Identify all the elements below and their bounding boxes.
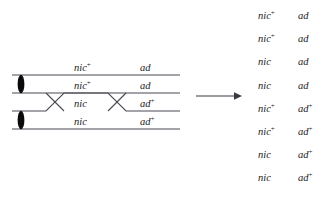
octad-row: nic ad [258,56,328,79]
tetrad-allele-nic-2: nic+ [74,81,91,92]
tetrad-allele-nic-4: nic [74,117,87,128]
octad-allele-ad: ad [298,56,309,67]
tetrad-allele-nic-3: nic [74,99,87,110]
right-arrow-icon [196,90,242,102]
octad-product-list: nic+ ad nic+ ad nic ad nic ad nic+ ad+ n… [258,10,328,196]
octad-allele-ad: ad+ [298,126,312,137]
octad-allele-ad: ad [298,33,309,44]
octad-allele-ad: ad [298,80,309,91]
octad-row: nic+ ad+ [258,126,328,149]
octad-allele-nic: nic+ [258,10,275,21]
tetrad-allele-nic-1: nic+ [74,63,91,74]
octad-row: nic ad [258,80,328,103]
octad-allele-nic: nic [258,56,271,67]
chromatid-line-3 [12,93,180,111]
octad-row: nic ad+ [258,172,328,195]
octad-allele-ad: ad+ [298,103,312,114]
centromere-icon-lower [18,111,25,129]
tetrad-allele-ad-3: ad+ [140,99,154,110]
octad-allele-nic: nic [258,80,271,91]
octad-allele-ad: ad+ [298,172,312,183]
octad-allele-nic: nic+ [258,126,275,137]
octad-allele-ad: ad [298,10,309,21]
octad-row: nic+ ad+ [258,103,328,126]
clipped-text-above-figure [0,0,332,9]
centromere-icon-upper [18,75,25,93]
tetrad-allele-ad-4: ad+ [140,117,154,128]
octad-allele-ad: ad+ [298,149,312,160]
tetrad-allele-ad-1: ad [140,63,151,74]
octad-row: nic+ ad [258,10,328,33]
octad-allele-nic: nic+ [258,103,275,114]
octad-allele-nic: nic [258,149,271,160]
octad-allele-nic: nic+ [258,33,275,44]
octad-row: nic+ ad [258,33,328,56]
octad-allele-nic: nic [258,172,271,183]
tetrad-strands-svg [12,66,180,138]
octad-row: nic ad+ [258,149,328,172]
tetrad-allele-ad-2: ad [140,81,151,92]
tetrad-diagram: nic+ ad nic+ ad nic ad+ nic ad+ [12,66,180,138]
